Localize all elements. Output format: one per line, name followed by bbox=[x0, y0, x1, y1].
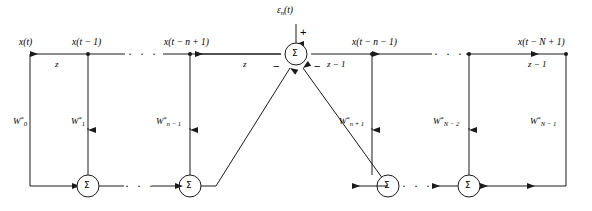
feedback-line-left bbox=[216, 68, 290, 186]
weight-N-1-base: W bbox=[530, 116, 538, 126]
tap-label-x-t-N-plus-1: x(t − N + 1) bbox=[518, 38, 565, 48]
weight-branch-0 bbox=[30, 54, 72, 186]
weight-1-base: W bbox=[71, 116, 79, 126]
tap-label-x-t: x(t) bbox=[19, 38, 32, 48]
tap-label-x-t-n-minus-1: x(t − n − 1) bbox=[352, 38, 397, 48]
weight-n-1-base: W bbox=[156, 116, 164, 126]
weight-1-sub: 1 bbox=[82, 120, 85, 127]
weight-N-1-sub: N − 1 bbox=[541, 120, 556, 127]
error-signal-arg: (t) bbox=[284, 5, 293, 15]
weight-label-1: W*1 bbox=[71, 116, 85, 127]
weight-label-n-plus-1: W*n + 1 bbox=[339, 116, 364, 127]
delay-label-right-1: z − 1 bbox=[327, 60, 346, 69]
delay-label-left-1: z bbox=[55, 60, 59, 69]
bottom-summer-2-symbol: Σ bbox=[186, 181, 192, 190]
central-summer-symbol: Σ bbox=[292, 49, 298, 58]
weight-label-n-minus-1: W*n − 1 bbox=[156, 116, 181, 127]
weight-label-N-minus-1: W*N − 1 bbox=[530, 116, 556, 127]
ellipsis-bottom-right: · · · bbox=[402, 179, 433, 194]
bottom-summer-3-symbol: Σ bbox=[384, 181, 390, 190]
weight-label-0: W*0 bbox=[13, 116, 27, 127]
weight-0-base: W bbox=[13, 116, 21, 126]
weight-N-2-base: W bbox=[433, 116, 441, 126]
bottom-summer-1-symbol: Σ bbox=[84, 181, 90, 190]
delay-label-right-2: z − 1 bbox=[528, 60, 547, 69]
tap-label-x-t-n-plus-1: x(t − n + 1) bbox=[164, 38, 209, 48]
weight-n+1-sub: n + 1 bbox=[350, 120, 364, 127]
weight-label-N-minus-2: W*N − 2 bbox=[433, 116, 459, 127]
error-signal-label: εn(t) bbox=[277, 6, 293, 16]
weight-0-sub: 0 bbox=[24, 120, 27, 127]
ellipsis-bottom-left: · · · bbox=[125, 179, 156, 194]
weight-N-2-sub: N − 2 bbox=[444, 120, 459, 127]
ellipsis-top-right: · · · bbox=[434, 47, 465, 62]
figure-canvas: x(t-n-1) node --> x(t-N+1) node (arrow p… bbox=[0, 0, 592, 211]
weight-n+1-base: W bbox=[339, 116, 347, 126]
delay-label-left-2: z bbox=[243, 60, 247, 69]
tap-label-x-t-1: x(t − 1) bbox=[72, 38, 101, 48]
bottom-summer-4-symbol: Σ bbox=[465, 181, 471, 190]
weight-n-1-sub: n − 1 bbox=[167, 120, 181, 127]
ellipsis-top-left: · · · bbox=[128, 47, 159, 62]
error-plus-sign: + bbox=[300, 27, 306, 38]
minus-sign-right: − bbox=[314, 61, 320, 72]
minus-sign-left: − bbox=[273, 61, 279, 72]
